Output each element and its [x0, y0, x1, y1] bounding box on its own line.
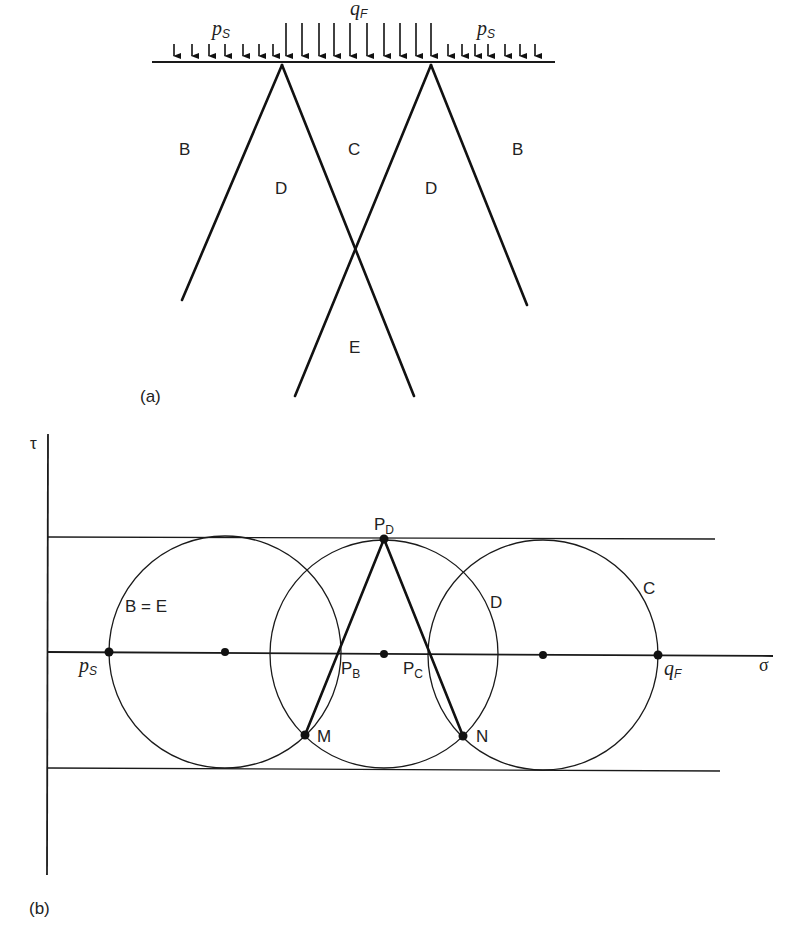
surcharge-arrows-left	[174, 44, 273, 56]
point-label-pd: PD	[374, 515, 394, 537]
point-label-pb: PB	[341, 659, 360, 681]
center-be	[221, 648, 229, 656]
pole-line-pd-n	[384, 539, 463, 736]
load-label-ps-right: pS	[475, 17, 495, 41]
point-label-m: M	[317, 727, 331, 746]
circle-label-be: B = E	[125, 597, 167, 616]
circle-label-c: C	[643, 579, 655, 598]
tau-axis	[47, 434, 48, 875]
center-d	[380, 650, 388, 658]
sigma-axis-label: σ	[759, 655, 769, 675]
sigma-axis	[48, 652, 773, 656]
point-label-ps: pS	[77, 654, 97, 678]
circle-label-d: D	[490, 593, 502, 612]
zone-label-d-left: D	[275, 179, 287, 198]
slip-line-left-inner	[282, 65, 414, 396]
center-c	[539, 651, 547, 659]
figure-b: τ σ B = E D C pS qF PD PB PC M N (b	[29, 434, 773, 918]
zone-label-c: C	[348, 140, 360, 159]
tau-axis-label: τ	[30, 434, 37, 453]
load-label-qf: qF	[350, 0, 368, 21]
point-label-n: N	[476, 727, 488, 746]
point-label-qf: qF	[664, 657, 682, 681]
slip-line-left-outer	[182, 65, 282, 300]
figure-canvas: qF pS pS B C B D D E (a) τ σ	[0, 0, 799, 948]
point-label-pc: PC	[403, 659, 423, 681]
point-qf	[654, 651, 663, 660]
point-ps	[105, 648, 114, 657]
point-m	[301, 731, 310, 740]
load-label-ps-left: pS	[210, 17, 230, 41]
slip-line-right-inner	[295, 65, 431, 396]
figure-a: qF pS pS B C B D D E (a)	[140, 0, 555, 406]
surcharge-arrows-right	[448, 44, 535, 56]
foundation-load-arrows	[286, 23, 431, 56]
zone-label-d-right: D	[425, 179, 437, 198]
zone-label-b-right: B	[512, 140, 523, 159]
zone-label-b-left: B	[179, 140, 190, 159]
pole-line-m-pd	[305, 539, 384, 735]
zone-label-e: E	[349, 338, 360, 357]
slip-line-right-outer	[431, 65, 527, 305]
panel-label-b: (b)	[29, 899, 50, 918]
panel-label-a: (a)	[140, 387, 161, 406]
point-n	[459, 732, 468, 741]
